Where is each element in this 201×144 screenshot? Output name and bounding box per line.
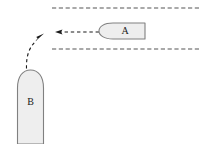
vessel-a[interactable]: A	[99, 23, 145, 39]
vessel-a-label: A	[121, 25, 129, 36]
arrow-vessel-a-course	[55, 29, 99, 34]
diagram-canvas: A B	[0, 0, 201, 144]
arrow-b-shaft	[26, 41, 36, 69]
arrow-vessel-b-course	[26, 34, 44, 69]
arrow-b-head-icon	[35, 34, 44, 42]
vessel-b-label: B	[27, 96, 34, 107]
vessel-manoeuvre-diagram: A B	[0, 0, 201, 144]
vessel-b[interactable]: B	[18, 70, 44, 144]
